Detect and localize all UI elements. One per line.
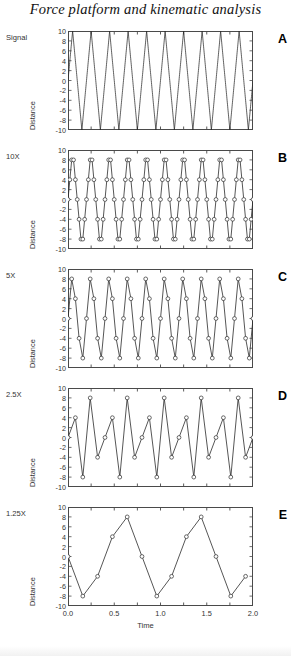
data-point-marker — [85, 198, 89, 202]
data-point-marker — [244, 217, 248, 221]
data-point-marker — [68, 555, 70, 559]
data-point-marker — [223, 198, 227, 202]
data-point-marker — [118, 237, 122, 241]
data-point-marker — [81, 237, 85, 241]
plot-area-d — [68, 388, 253, 487]
data-point-marker — [111, 297, 115, 301]
data-point-marker — [107, 277, 111, 281]
data-point-marker — [68, 198, 70, 202]
plot-svg — [68, 31, 253, 130]
data-point-marker — [96, 574, 100, 578]
y-tick-label: 6 — [62, 403, 66, 412]
data-point-marker — [129, 297, 133, 301]
data-point-marker — [72, 158, 76, 162]
data-point-marker — [197, 178, 201, 182]
data-point-marker — [214, 198, 218, 202]
y-tick-label: -2 — [60, 205, 66, 214]
y-ticks-c: 1086420-2-4-6-8-10 — [40, 269, 66, 368]
data-point-marker — [133, 455, 137, 459]
data-point-marker — [188, 217, 192, 221]
data-point-marker — [138, 217, 142, 221]
y-tick-label: -8 — [60, 116, 66, 125]
x-tick-label: 0.5 — [109, 609, 119, 618]
y-ticks-b: 1086420-2-4-6-8-10 — [40, 150, 66, 249]
y-tick-label: 0 — [62, 552, 66, 561]
y-tick-label: 0 — [62, 195, 66, 204]
data-point-marker — [177, 317, 181, 321]
data-point-marker — [210, 356, 214, 360]
data-point-marker — [74, 416, 78, 420]
panel-e: 1.25X E Distance 1086420-2-4-6-8-10 — [0, 507, 291, 618]
data-point-marker — [125, 277, 129, 281]
data-point-marker — [155, 475, 159, 479]
data-point-marker — [192, 356, 196, 360]
data-point-marker — [148, 416, 152, 420]
y-tick-label: 0 — [62, 76, 66, 85]
y-tick-label: -6 — [60, 344, 66, 353]
data-point-marker — [105, 178, 109, 182]
data-point-marker — [216, 178, 220, 182]
data-point-marker — [251, 198, 253, 202]
data-point-marker — [170, 336, 174, 340]
data-point-marker — [166, 178, 170, 182]
y-ticks-e: 1086420-2-4-6-8-10 — [40, 507, 66, 606]
data-point-marker — [103, 436, 107, 440]
data-series-line — [68, 398, 253, 477]
data-point-marker — [74, 178, 78, 182]
data-point-marker — [194, 217, 198, 221]
plot-svg — [68, 269, 253, 368]
y-axis-label-c: Distance — [28, 269, 37, 368]
data-point-marker — [225, 217, 229, 221]
data-point-marker — [247, 237, 251, 241]
y-tick-label: 4 — [62, 175, 66, 184]
data-point-marker — [94, 198, 98, 202]
y-tick-label: -8 — [60, 235, 66, 244]
data-point-marker — [129, 178, 133, 182]
data-point-marker — [210, 237, 214, 241]
data-point-marker — [218, 277, 222, 281]
data-point-marker — [212, 217, 216, 221]
data-point-marker — [99, 237, 103, 241]
data-point-marker — [120, 217, 124, 221]
data-point-marker — [233, 317, 237, 321]
data-point-marker — [81, 356, 85, 360]
y-tick-label: 0 — [62, 433, 66, 442]
data-point-marker — [185, 535, 189, 539]
data-point-marker — [229, 356, 233, 360]
data-point-marker — [203, 178, 207, 182]
y-tick-label: 4 — [62, 294, 66, 303]
x-tick-label: 1.0 — [155, 609, 165, 618]
row-label-signal: Signal — [6, 33, 27, 42]
data-point-marker — [170, 455, 174, 459]
data-point-marker — [118, 356, 122, 360]
data-point-marker — [88, 396, 92, 400]
data-point-marker — [175, 217, 179, 221]
y-tick-label: -2 — [60, 324, 66, 333]
y-tick-label: 2 — [62, 66, 66, 75]
y-ticks-a: 1086420-2-4-6-8-10 — [40, 31, 66, 130]
x-axis-ticks: 0.00.51.01.52.0 — [0, 609, 291, 621]
y-tick-label: 2 — [62, 542, 66, 551]
data-point-marker — [170, 574, 174, 578]
data-point-marker — [118, 475, 122, 479]
data-point-marker — [149, 198, 153, 202]
y-tick-label: 2 — [62, 423, 66, 432]
y-tick-label: 6 — [62, 522, 66, 531]
data-point-marker — [225, 336, 229, 340]
data-point-marker — [68, 317, 70, 321]
data-point-marker — [170, 217, 174, 221]
y-tick-label: 10 — [58, 503, 66, 512]
plot-area-e — [68, 507, 253, 606]
y-tick-label: -4 — [60, 334, 66, 343]
data-point-marker — [201, 158, 205, 162]
data-point-marker — [74, 297, 78, 301]
y-tick-label: 2 — [62, 304, 66, 313]
data-point-marker — [214, 436, 218, 440]
data-point-marker — [173, 237, 177, 241]
data-point-marker — [133, 217, 137, 221]
data-point-marker — [125, 515, 129, 519]
data-point-marker — [229, 475, 233, 479]
data-point-marker — [199, 515, 203, 519]
data-point-marker — [148, 178, 152, 182]
data-point-marker — [77, 336, 81, 340]
